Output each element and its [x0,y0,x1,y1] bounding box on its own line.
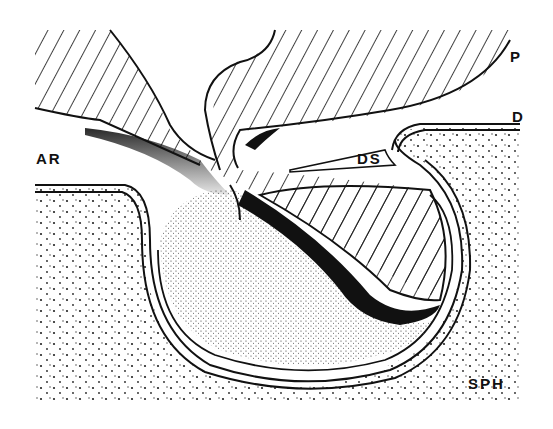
label-sph: SPH [468,375,505,392]
label-ar: AR [36,150,62,167]
label-p: P [510,48,522,65]
label-d: D [512,108,525,125]
anatomical-diagram [0,0,553,429]
label-ds: DS [357,150,382,167]
